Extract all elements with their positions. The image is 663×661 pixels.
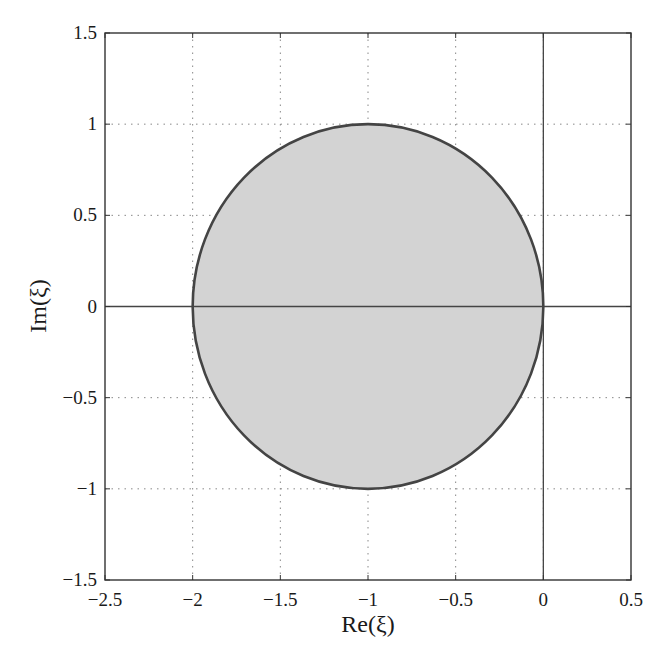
y-tick-label: −1.5	[63, 569, 97, 590]
chart: −2.5−2−1.5−1−0.500.5 −1.5−1−0.500.511.5 …	[0, 0, 663, 661]
x-tick-label: 0	[539, 589, 549, 610]
x-tick-label: −1	[358, 589, 378, 610]
x-tick-label: −1.5	[263, 589, 297, 610]
y-tick-label: −0.5	[63, 387, 97, 408]
x-axis-label: Re(ξ)	[341, 611, 394, 637]
y-tick-label: 0.5	[73, 204, 97, 225]
x-tick-label: −2	[183, 589, 203, 610]
x-tick-label: 0.5	[619, 589, 643, 610]
y-tick-label: −1	[77, 478, 97, 499]
x-tick-labels: −2.5−2−1.5−1−0.500.5	[88, 589, 643, 610]
y-tick-label: 1.5	[73, 22, 97, 43]
y-tick-label: 1	[88, 113, 98, 134]
y-tick-label: 0	[88, 296, 98, 317]
reference-lines	[105, 33, 631, 580]
x-tick-label: −2.5	[88, 589, 122, 610]
y-axis-label: Im(ξ)	[25, 279, 51, 332]
y-tick-labels: −1.5−1−0.500.511.5	[63, 22, 97, 590]
x-tick-label: −0.5	[438, 589, 472, 610]
